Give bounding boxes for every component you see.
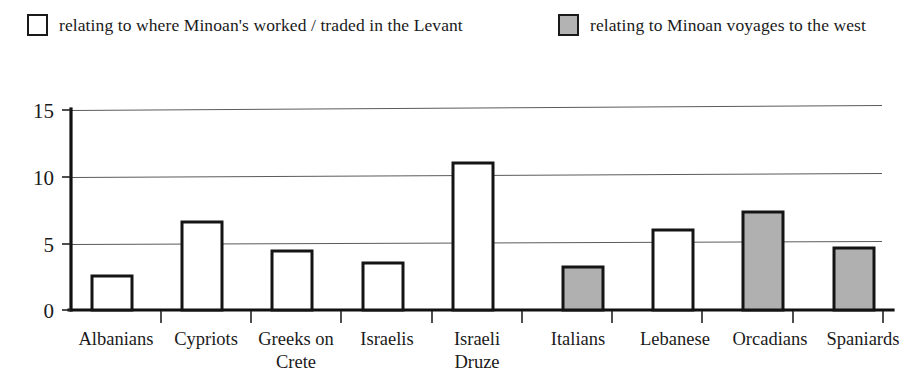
x-tick-marks <box>161 311 883 323</box>
y-tick-label-15: 15 <box>33 99 54 123</box>
bar-israelis[interactable] <box>363 263 403 310</box>
x-label-orcadians: Orcadians <box>733 329 808 349</box>
bar-orcadians[interactable] <box>743 212 783 310</box>
x-label-spaniards: Spaniards <box>827 329 900 349</box>
bar-albanians[interactable] <box>92 276 132 310</box>
x-label-cypriots: Cypriots <box>174 329 238 349</box>
y-tick-label-10: 10 <box>33 166 54 190</box>
chart-canvas: 15 10 5 0 <box>0 0 907 382</box>
bar-cypriots[interactable] <box>182 222 222 310</box>
x-axis-category-labels: Albanians Cypriots Greeks on Crete Israe… <box>78 329 899 372</box>
x-label-israeli-druze-line1: Israeli <box>454 329 500 349</box>
bar-spaniards[interactable] <box>834 248 874 310</box>
x-label-albanians: Albanians <box>78 329 153 349</box>
x-label-israelis: Israelis <box>360 329 413 349</box>
y-tick-label-0: 0 <box>44 299 55 323</box>
bar-greeks-on-crete[interactable] <box>272 251 312 310</box>
bar-israeli-druze[interactable] <box>453 163 493 310</box>
x-label-greeks-on-crete-line2: Crete <box>276 352 316 372</box>
bar-italians[interactable] <box>563 267 603 310</box>
x-label-italians: Italians <box>551 329 605 349</box>
bar-lebanese[interactable] <box>653 230 693 310</box>
y-axis-tick-labels: 15 10 5 0 <box>33 99 54 323</box>
x-label-greeks-on-crete-line1: Greeks on <box>258 329 334 349</box>
bar-chart: 15 10 5 0 <box>0 0 907 382</box>
x-label-israeli-druze-line2: Druze <box>454 352 499 372</box>
bars <box>92 163 874 310</box>
y-tick-label-5: 5 <box>44 233 55 257</box>
x-label-lebanese: Lebanese <box>640 329 710 349</box>
gridline-15 <box>70 106 882 111</box>
